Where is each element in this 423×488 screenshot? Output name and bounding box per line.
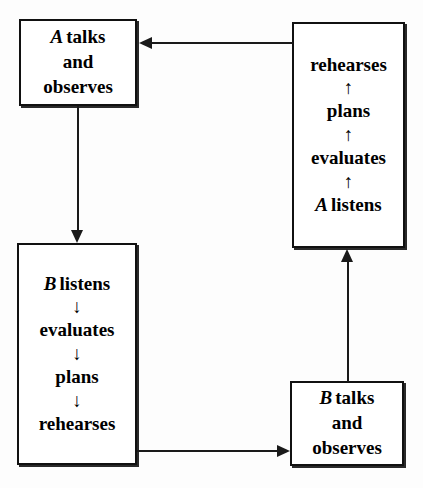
role-label-a: A <box>315 194 331 215</box>
node-b-listens-sequence[interactable]: Blistens ↓ evaluates ↓ plans ↓ rehearses <box>17 243 137 465</box>
node-b-step-1: Blistens <box>44 272 110 297</box>
up-arrow-icon: ↑ <box>344 172 354 192</box>
arrowhead-right-icon <box>277 445 290 457</box>
arrowhead-left-icon <box>139 37 152 49</box>
arrowhead-up-icon <box>341 249 353 262</box>
diagram-canvas: Atalks and observes Blistens ↓ evaluates… <box>0 0 423 488</box>
node-b-talks-line-3: observes <box>312 436 382 461</box>
node-a-step-1-word: listens <box>331 194 382 215</box>
edge-line <box>77 106 79 231</box>
down-arrow-icon: ↓ <box>72 297 82 317</box>
edge-line <box>152 42 293 44</box>
down-arrow-icon: ↓ <box>72 391 82 411</box>
node-b-talks-line-1: Btalks <box>320 386 375 411</box>
up-arrow-icon: ↑ <box>344 125 354 145</box>
role-label-b: B <box>320 387 336 408</box>
edge-line <box>137 450 278 452</box>
node-b-talks-line-2: and <box>332 411 363 436</box>
down-arrow-icon: ↓ <box>72 344 82 364</box>
arrowhead-down-icon <box>71 230 83 243</box>
node-b-step-2: evaluates <box>40 318 115 343</box>
node-b-step-4: rehearses <box>39 412 116 437</box>
node-a-talks-line-1: Atalks <box>51 25 106 50</box>
node-a-talks-line-2: and <box>63 50 94 75</box>
edge-line <box>347 262 349 382</box>
node-b-talks-and-observes[interactable]: Btalks and observes <box>290 381 404 466</box>
node-b-step-3: plans <box>55 365 98 390</box>
node-a-step-2: evaluates <box>311 146 386 171</box>
node-a-talks-word-1: talks <box>66 26 105 47</box>
node-a-step-4: rehearses <box>310 53 387 78</box>
role-label-a: A <box>51 26 67 47</box>
up-arrow-icon: ↑ <box>344 78 354 98</box>
node-b-step-1-word: listens <box>60 273 111 294</box>
node-a-listens-sequence[interactable]: rehearses ↑ plans ↑ evaluates ↑ Alistens <box>292 22 405 248</box>
node-a-step-3: plans <box>327 99 370 124</box>
node-a-step-1: Alistens <box>315 193 381 218</box>
role-label-b: B <box>44 273 60 294</box>
node-a-talks-and-observes[interactable]: Atalks and observes <box>19 19 137 106</box>
node-a-talks-line-3: observes <box>43 75 113 100</box>
node-b-talks-word-1: talks <box>335 387 374 408</box>
